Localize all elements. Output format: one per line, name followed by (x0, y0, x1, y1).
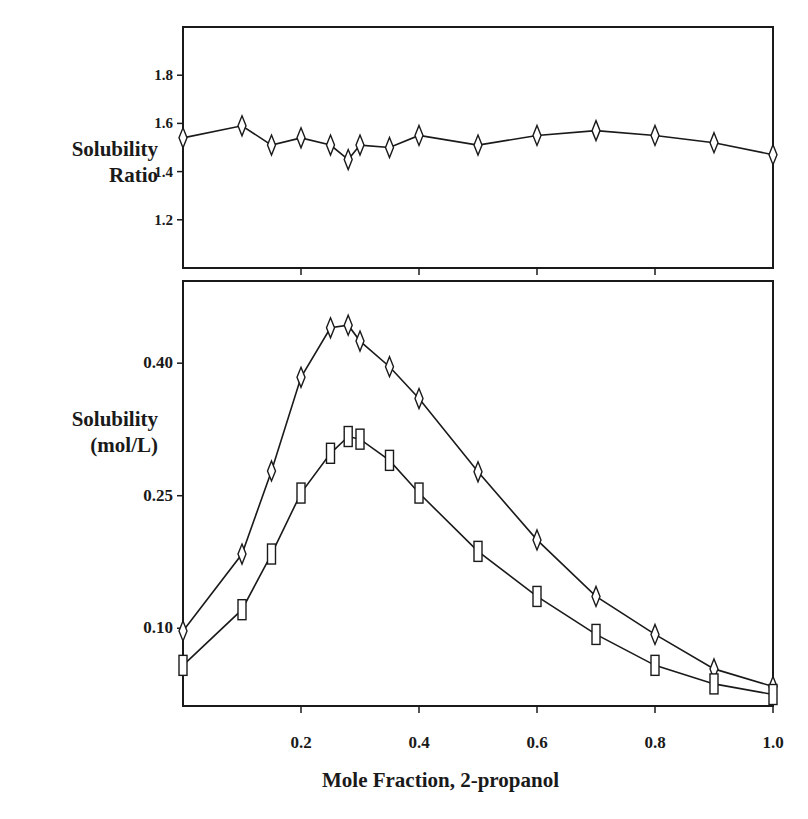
y-tick-label: 1.8 (154, 67, 173, 83)
x-tick-label: 0.2 (290, 733, 311, 752)
diamond-marker (356, 331, 364, 351)
top-y-axis-label-line1: Solubility (40, 136, 158, 162)
top-panel: 1.21.41.61.8 (154, 27, 777, 275)
square-marker (474, 541, 482, 561)
square-marker (710, 674, 718, 694)
diamond-marker (356, 135, 364, 155)
top-y-axis-label: Solubility Ratio (40, 136, 158, 188)
y-tick-label: 0.40 (143, 353, 173, 372)
square-marker (651, 655, 659, 675)
x-tick-label: 0.6 (526, 733, 547, 752)
diamond-marker (327, 318, 335, 338)
square-marker (327, 443, 335, 463)
x-tick-label: 0.4 (408, 733, 430, 752)
diamond-marker (344, 315, 352, 335)
panel-frame (183, 281, 773, 706)
square-marker (356, 429, 364, 449)
diamond-marker (474, 462, 482, 482)
square-marker (238, 600, 246, 620)
diamond-marker (238, 116, 246, 136)
diamond-marker (651, 624, 659, 644)
y-tick-label: 0.10 (143, 618, 173, 637)
square-marker (344, 427, 352, 447)
diamond-marker (592, 586, 600, 606)
diamond-marker (651, 125, 659, 145)
square-marker (386, 450, 394, 470)
bottom-y-axis-label: Solubility (mol/L) (30, 406, 158, 458)
figure: 1.21.41.61.80.100.250.400.20.40.60.81.0 … (0, 0, 808, 819)
square-marker (592, 624, 600, 644)
y-tick-label: 1.6 (154, 115, 173, 131)
diamond-marker (533, 530, 541, 550)
square-marker (533, 586, 541, 606)
square-marker (415, 483, 423, 503)
diamond-marker (344, 150, 352, 170)
bottom-y-axis-label-line1: Solubility (30, 406, 158, 432)
y-tick-label: 1.2 (154, 212, 173, 228)
diamond-marker (268, 135, 276, 155)
diamond-marker (533, 125, 541, 145)
bottom-y-axis-label-line2: (mol/L) (30, 432, 158, 458)
diamond-marker (386, 138, 394, 158)
x-tick-label: 0.8 (644, 733, 665, 752)
diamond-marker (386, 357, 394, 377)
diamond-marker (179, 128, 187, 148)
x-axis-label: Mole Fraction, 2-propanol (322, 768, 559, 793)
diamond-marker (474, 135, 482, 155)
y-tick-label: 0.25 (143, 486, 173, 505)
series-line (183, 325, 773, 686)
top-y-axis-label-line2: Ratio (40, 162, 158, 188)
x-tick-label: 1.0 (762, 733, 783, 752)
square-marker (769, 685, 777, 705)
diamond-marker (179, 621, 187, 641)
square-marker (297, 483, 305, 503)
diamond-marker (710, 133, 718, 153)
diamond-marker (592, 121, 600, 141)
diamond-marker (415, 125, 423, 145)
diamond-marker (297, 128, 305, 148)
diamond-marker (415, 389, 423, 409)
square-marker (268, 544, 276, 564)
diamond-marker (327, 135, 335, 155)
bottom-panel: 0.100.250.400.20.40.60.81.0 (143, 281, 783, 752)
diamond-marker (769, 145, 777, 165)
square-marker (179, 655, 187, 675)
